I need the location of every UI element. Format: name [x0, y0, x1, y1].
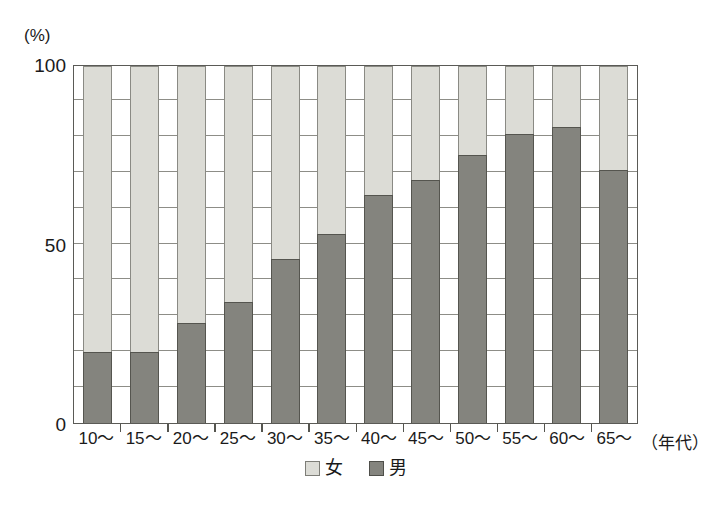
stacked-bar — [177, 66, 206, 423]
legend-swatch-icon — [369, 461, 384, 476]
bar-segment-male — [364, 195, 393, 423]
legend-label: 女 — [325, 459, 343, 477]
x-axis-category-label: 60〜 — [544, 429, 591, 449]
bar-segment-male — [505, 134, 534, 423]
bar-segment-female — [505, 66, 534, 134]
bar-segment-female — [364, 66, 393, 195]
x-axis-category-label: 20〜 — [167, 429, 214, 449]
x-axis-title: （年代） — [641, 429, 709, 454]
bar-segment-male — [130, 352, 159, 423]
stacked-bar — [599, 66, 628, 423]
stacked-bar — [130, 66, 159, 423]
x-axis-category-label: 50〜 — [450, 429, 497, 449]
bar-segment-male — [224, 302, 253, 423]
stacked-bar — [364, 66, 393, 423]
x-axis-category-label: 10〜 — [73, 429, 120, 449]
y-axis-tick-label: 50 — [4, 236, 66, 255]
bar-segment-male — [552, 127, 581, 423]
bar-segment-female — [552, 66, 581, 127]
x-axis-category-label: 65〜 — [591, 429, 638, 449]
bar-segment-male — [411, 180, 440, 423]
stacked-bar — [505, 66, 534, 423]
x-axis-category-label: 45〜 — [403, 429, 450, 449]
bar-segment-male — [317, 234, 346, 423]
stacked-bar — [411, 66, 440, 423]
bar-segment-female — [177, 66, 206, 323]
x-axis-category-label: 40〜 — [356, 429, 403, 449]
stacked-bar — [458, 66, 487, 423]
bar-series-container — [74, 66, 637, 423]
bar-segment-female — [317, 66, 346, 234]
stacked-bar — [83, 66, 112, 423]
bar-segment-male — [458, 155, 487, 423]
stacked-bar — [552, 66, 581, 423]
bar-segment-male — [271, 259, 300, 423]
x-axis-category-label: 55〜 — [497, 429, 544, 449]
x-axis-category-label: 25〜 — [214, 429, 261, 449]
x-axis-category-label: 15〜 — [120, 429, 167, 449]
bar-segment-female — [83, 66, 112, 352]
y-axis-tick-label: 100 — [4, 56, 66, 75]
y-axis-tick-labels: 050100 — [0, 0, 66, 509]
x-axis-category-label: 30〜 — [261, 429, 308, 449]
bar-segment-male — [599, 170, 628, 423]
legend-item: 男 — [369, 459, 407, 477]
bar-segment-female — [271, 66, 300, 259]
x-axis-category-labels: 10〜15〜20〜25〜30〜35〜40〜45〜50〜55〜60〜65〜 — [73, 429, 638, 455]
x-axis-category-label: 35〜 — [308, 429, 355, 449]
stacked-bar-chart: (%) 050100 10〜15〜20〜25〜30〜35〜40〜45〜50〜55… — [0, 0, 711, 509]
bar-segment-female — [224, 66, 253, 302]
legend-label: 男 — [389, 459, 407, 477]
bar-segment-male — [83, 352, 112, 423]
legend-item: 女 — [305, 459, 343, 477]
bar-segment-female — [130, 66, 159, 352]
bar-segment-female — [411, 66, 440, 180]
stacked-bar — [317, 66, 346, 423]
legend-swatch-icon — [305, 461, 320, 476]
y-axis-tick-label: 0 — [4, 415, 66, 434]
bar-segment-female — [599, 66, 628, 170]
bar-segment-female — [458, 66, 487, 155]
bar-segment-male — [177, 323, 206, 423]
chart-legend: 女男 — [0, 459, 711, 477]
plot-area — [73, 65, 638, 424]
stacked-bar — [224, 66, 253, 423]
stacked-bar — [271, 66, 300, 423]
